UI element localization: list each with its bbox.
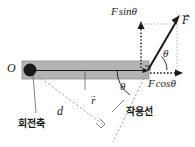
right-angle-marker — [96, 119, 105, 128]
force-sin-symbol: F — [111, 5, 118, 17]
force-cos-function: cos — [156, 77, 171, 89]
r-vector-label: r — [91, 95, 95, 106]
force-cos-component-arrow — [150, 70, 183, 77]
angle-upper-label: θ — [163, 48, 168, 59]
force-sin-label: Fsinθ — [111, 6, 137, 17]
force-label: F — [182, 14, 189, 26]
line-of-action-leader — [112, 100, 124, 112]
torque-diagram-figure: O Fsinθ F θ Fcosθ θ r d 회전축 작용선 — [0, 0, 195, 147]
force-sin-angle: θ — [132, 5, 137, 17]
pivot-axis-label: 회전축 — [18, 119, 45, 129]
r-symbol: r — [91, 94, 95, 106]
force-sin-function: sin — [119, 5, 132, 17]
force-cos-label: Fcosθ — [148, 78, 176, 89]
origin-label: O — [7, 62, 16, 74]
force-cos-symbol: F — [148, 77, 155, 89]
force-cos-angle: θ — [170, 77, 175, 89]
distance-label: d — [57, 105, 63, 117]
pivot-point — [24, 64, 37, 77]
pivot-leader-line — [33, 75, 36, 113]
angle-lower-label: θ — [120, 81, 125, 92]
force-vector-arrow — [148, 15, 180, 70]
force-symbol: F — [182, 13, 189, 27]
line-of-action-label: 작용선 — [126, 107, 153, 117]
